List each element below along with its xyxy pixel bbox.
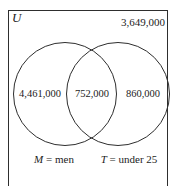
universe-label: U <box>12 11 21 24</box>
legend-item-under25: T = under 25 <box>101 153 158 165</box>
set-definition-under25: = under 25 <box>110 153 158 165</box>
intersection-value: 752,000 <box>75 89 109 100</box>
set-definition-men: = men <box>46 153 74 165</box>
set-symbol-m: M <box>34 153 43 165</box>
under25-only-value: 860,000 <box>126 89 160 100</box>
set-symbol-t: T <box>101 153 107 165</box>
men-only-value: 4,461,000 <box>19 89 61 100</box>
outside-both-value: 3,649,000 <box>121 17 165 28</box>
venn-diagram: U 3,649,000 4,461,000 752,000 860,000 M … <box>0 0 179 186</box>
legend-item-men: M = men <box>34 153 74 165</box>
